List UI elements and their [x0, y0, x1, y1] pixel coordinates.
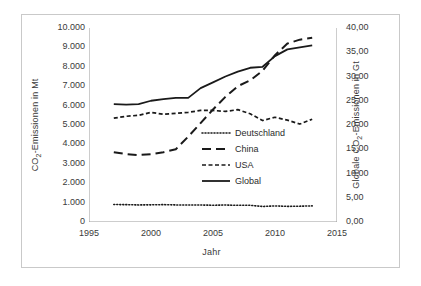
x-axis-tick-label: 1995 [66, 228, 112, 238]
series-line-deutschland [114, 205, 312, 207]
y-axis-left-tick-label: 9.000 [39, 41, 85, 51]
legend-label: Global [235, 176, 261, 186]
y-axis-right-tick-label: 20,00 [346, 119, 392, 129]
y-axis-left-tick-label: 2.000 [39, 177, 85, 187]
y-axis-right-tick-label: 5,00 [346, 192, 392, 202]
legend-label: China [235, 144, 259, 154]
x-axis-title: Jahr [22, 247, 401, 257]
x-axis-tick-label: 2015 [314, 228, 360, 238]
y-axis-left-tick-label: 3.000 [39, 158, 85, 168]
y-axis-right-tick-label: 40,00 [346, 22, 392, 32]
legend-swatch-china [201, 144, 231, 154]
x-axis-tick-label: 2010 [252, 228, 298, 238]
y-axis-left-tick-label: 0 [39, 216, 85, 226]
legend-label: Deutschland [235, 128, 285, 138]
y-axis-left-tick-label: 4.000 [39, 138, 85, 148]
y-axis-right-tick-label: 25,00 [346, 95, 392, 105]
x-axis-tick-label: 2005 [190, 228, 236, 238]
chart-legend: DeutschlandChinaUSAGlobal [201, 125, 285, 189]
y-axis-left-tick-label: 10.000 [39, 22, 85, 32]
y-axis-left-tick-label: 1.000 [39, 197, 85, 207]
y-axis-left-tick-label: 6.000 [39, 100, 85, 110]
series-line-usa [114, 110, 312, 124]
legend-item-deutschland[interactable]: Deutschland [201, 125, 285, 141]
legend-item-usa[interactable]: USA [201, 157, 285, 173]
y-axis-right-tick-label: 0,00 [346, 216, 392, 226]
legend-swatch-global [201, 176, 231, 186]
legend-item-global[interactable]: Global [201, 173, 285, 189]
y-axis-right-tick-label: 30,00 [346, 71, 392, 81]
legend-label: USA [235, 160, 254, 170]
legend-item-china[interactable]: China [201, 141, 285, 157]
y-axis-left-tick-label: 7.000 [39, 80, 85, 90]
y-axis-right-tick-label: 10,00 [346, 168, 392, 178]
y-axis-right-tick-label: 35,00 [346, 46, 392, 56]
legend-swatch-usa [201, 160, 231, 170]
chart-frame: CO2-Emissionen in Mt Globale CO2-Emissio… [21, 14, 400, 268]
series-line-global [114, 45, 312, 104]
y-axis-right-tick-label: 15,00 [346, 143, 392, 153]
y-axis-left-tick-label: 8.000 [39, 61, 85, 71]
legend-swatch-deutschland [201, 128, 231, 138]
y-axis-left-tick-label: 5.000 [39, 119, 85, 129]
x-axis-tick-label: 2000 [128, 228, 174, 238]
